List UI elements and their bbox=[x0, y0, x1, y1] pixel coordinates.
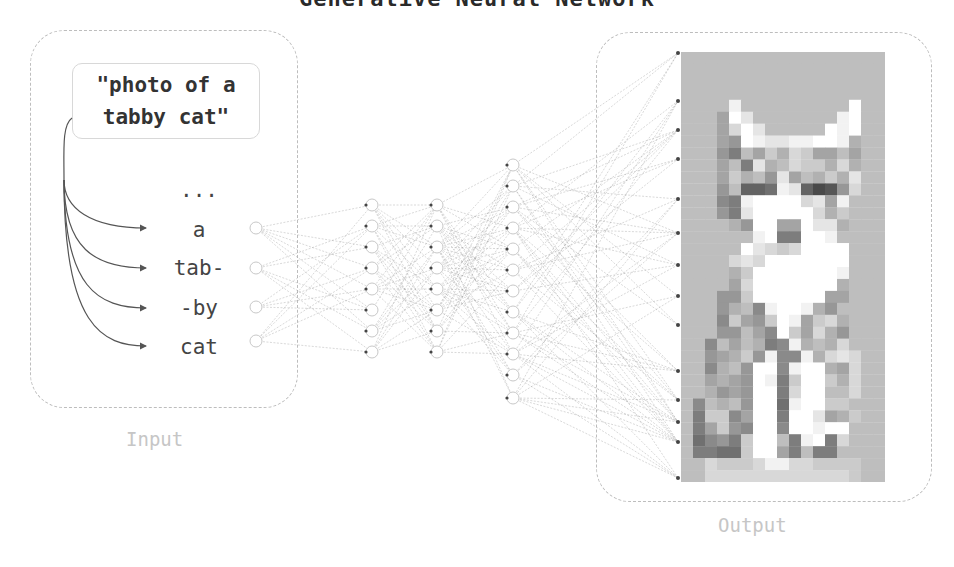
network-node bbox=[507, 327, 519, 339]
tokenizer-arrows-icon bbox=[64, 118, 146, 346]
network-node bbox=[366, 220, 378, 232]
output-node bbox=[676, 51, 680, 55]
output-node bbox=[676, 231, 680, 235]
output-node bbox=[676, 420, 680, 424]
network-node bbox=[250, 262, 262, 274]
network-node bbox=[507, 243, 519, 255]
output-node bbox=[676, 197, 680, 201]
output-node bbox=[676, 323, 680, 327]
network-node bbox=[431, 304, 443, 316]
network-node bbox=[366, 346, 378, 358]
network-node bbox=[431, 262, 443, 274]
network-nodes bbox=[250, 51, 680, 480]
network-node bbox=[366, 304, 378, 316]
network-node bbox=[507, 348, 519, 360]
network-node bbox=[507, 392, 519, 404]
network-node bbox=[250, 222, 262, 234]
network-node bbox=[366, 262, 378, 274]
network-node bbox=[250, 301, 262, 313]
network-node bbox=[250, 335, 262, 347]
output-node bbox=[676, 263, 680, 267]
network-node bbox=[431, 241, 443, 253]
output-node bbox=[676, 476, 680, 480]
network-node bbox=[431, 199, 443, 211]
network-node bbox=[431, 220, 443, 232]
network-node bbox=[507, 306, 519, 318]
output-node bbox=[676, 398, 680, 402]
network-node bbox=[507, 159, 519, 171]
network-node bbox=[431, 346, 443, 358]
network-node bbox=[507, 264, 519, 276]
output-node bbox=[676, 99, 680, 103]
network-node bbox=[366, 199, 378, 211]
generated-cat-image bbox=[681, 52, 885, 482]
network-node bbox=[366, 283, 378, 295]
network-node bbox=[366, 241, 378, 253]
network-edges bbox=[256, 53, 678, 478]
output-node bbox=[676, 369, 680, 373]
network-node bbox=[507, 201, 519, 213]
output-node bbox=[676, 294, 680, 298]
network-node bbox=[507, 180, 519, 192]
output-node bbox=[676, 157, 680, 161]
network-node bbox=[507, 222, 519, 234]
network-node bbox=[431, 325, 443, 337]
network-node bbox=[507, 285, 519, 297]
network-node bbox=[431, 283, 443, 295]
output-node bbox=[676, 128, 680, 132]
network-node bbox=[507, 369, 519, 381]
network-node bbox=[366, 325, 378, 337]
output-node bbox=[676, 440, 680, 444]
